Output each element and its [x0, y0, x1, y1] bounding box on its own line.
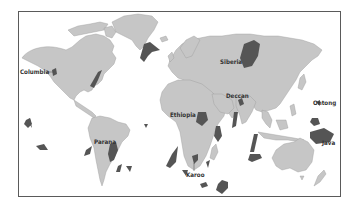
landmass-new-zealand [314, 170, 326, 186]
label-parana: Parana [94, 138, 116, 145]
landmass-philippines [290, 104, 296, 116]
landmass-southeast-asia [262, 110, 272, 128]
landmass-tasmania [300, 176, 304, 180]
landmass-borneo [276, 120, 288, 130]
province-kerguelen [216, 180, 228, 194]
label-columbia: Columbia [20, 68, 49, 75]
province-sierra-leone [144, 124, 148, 128]
province-crozet [206, 160, 210, 168]
province-ninetyeast [250, 134, 258, 152]
province-rio-grande [116, 164, 122, 172]
province-ontong [310, 118, 320, 126]
label-java: Java [321, 139, 335, 147]
province-mozambique [166, 146, 178, 168]
landmass-iceland [160, 36, 168, 42]
label-ethiopia: Ethiopia [170, 111, 196, 119]
landmass-australia [272, 138, 314, 172]
province-walvis [126, 166, 132, 172]
province-pacific-2 [36, 144, 48, 150]
landmass-arctic-islands [68, 22, 108, 36]
label-siberia: Siberia [220, 58, 242, 65]
province-broken-ridge [248, 154, 262, 162]
province-caribbean [84, 146, 92, 156]
landmass-japan [298, 74, 306, 90]
landmass-central-america [74, 100, 96, 118]
label-deccan: Deccan [226, 92, 249, 99]
label-ontong: Ontong [313, 99, 336, 107]
landmass-north-america [22, 34, 116, 100]
label-karoo: Karoo [186, 171, 205, 178]
landmass-madagascar [210, 144, 218, 160]
province-conrad [200, 182, 208, 188]
world-map: Columbia Siberia Deccan Ontong Java Ethi… [0, 0, 357, 212]
